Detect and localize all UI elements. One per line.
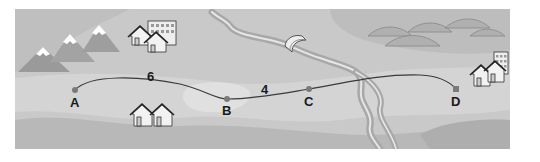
point-c-label: C bbox=[304, 94, 314, 109]
point-d-label: D bbox=[451, 94, 460, 109]
point-a-marker bbox=[72, 87, 78, 93]
point-b-marker bbox=[224, 96, 230, 102]
point-b-label: B bbox=[222, 103, 231, 118]
point-d-marker bbox=[453, 86, 459, 92]
distance-label-bc: 4 bbox=[261, 82, 269, 97]
distance-label-ab: 6 bbox=[147, 69, 154, 84]
point-a-label: A bbox=[70, 95, 80, 110]
map-canvas: A B C D 6 4 bbox=[15, 9, 510, 149]
point-c-marker bbox=[306, 86, 312, 92]
